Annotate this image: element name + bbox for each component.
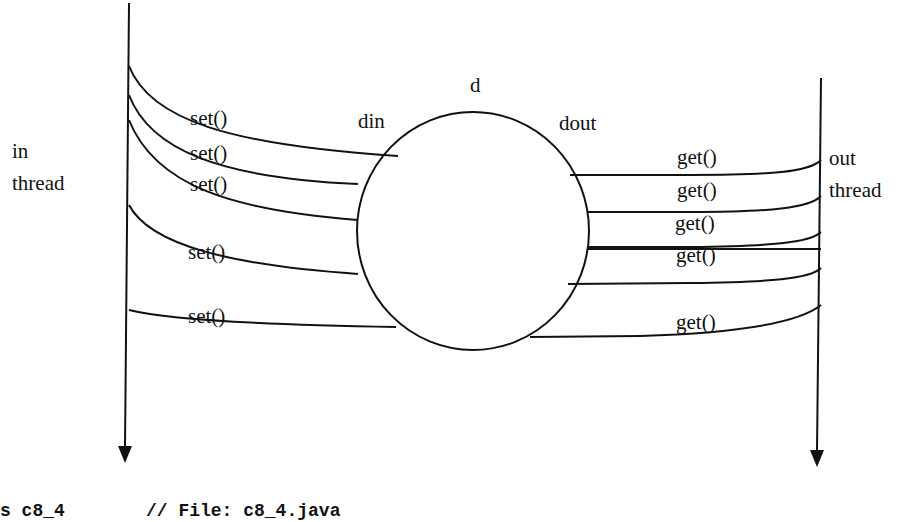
din-label: din — [358, 109, 385, 133]
set-call-label: set() — [190, 141, 227, 165]
out-thread-label-line2: thread — [829, 178, 882, 202]
set-arrows — [129, 66, 398, 327]
in-thread-label-line1: in — [12, 139, 29, 163]
get-call-label: get() — [677, 145, 717, 169]
in-thread-timeline — [118, 3, 132, 463]
buffer-circle — [357, 112, 589, 350]
set-call-label: set() — [190, 106, 227, 130]
get-call-label: get() — [676, 310, 716, 334]
get-call-label: get() — [675, 211, 715, 235]
dout-label: dout — [559, 111, 597, 135]
set-call-label: set() — [188, 240, 225, 264]
buffer-label: d — [470, 73, 481, 97]
set-call-label: set() — [188, 304, 225, 328]
arrow-down-icon — [810, 450, 824, 467]
code-caption-comment: // File: c8_4.java — [146, 501, 341, 521]
producer-consumer-diagram: d din dout in thread out thread set() se… — [0, 0, 909, 522]
in-thread-label-line2: thread — [12, 171, 65, 195]
arrow-down-icon — [118, 446, 132, 463]
get-call-label: get() — [676, 243, 716, 267]
get-call-label: get() — [677, 178, 717, 202]
set-call-label: set() — [190, 172, 227, 196]
out-thread-label-line1: out — [829, 146, 856, 170]
code-caption-class: s c8_4 — [0, 501, 65, 521]
